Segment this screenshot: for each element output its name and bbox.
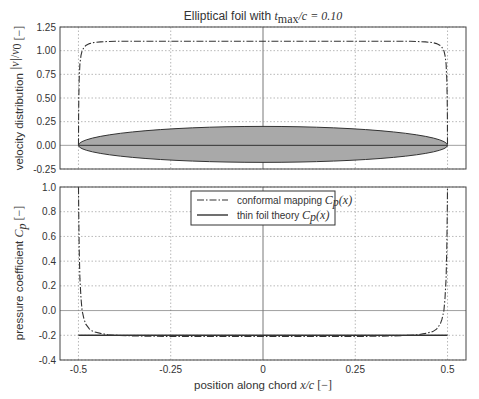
figure: Elliptical foil with tmax/c = 0.10 -0.25… [0, 0, 479, 399]
pressure-axes: -0.4-0.20.00.20.40.60.81.0 -0.5-0.2500.2… [12, 182, 466, 393]
velocity-ylabel: velocity distribution |v|/v0 [−] [8, 26, 26, 171]
ytick-label: 0.8 [42, 206, 56, 217]
svg-text:pressure coefficient Cp [: pressure coefficient Cp [−] [12, 206, 29, 340]
ytick-label: 1.0 [42, 182, 56, 193]
ytick-label: -0.2 [39, 330, 57, 341]
pressure-ylabel: pressure coefficient Cp [−] [12, 206, 29, 340]
ytick-label: 0.2 [42, 280, 56, 291]
pressure-xticks: -0.5-0.2500.250.5 [70, 364, 455, 375]
ytick-label: -0.25 [33, 164, 56, 175]
velocity-axes: -0.250.000.250.500.751.001.25 velocity d… [8, 22, 466, 175]
ytick-label: 0.0 [42, 305, 56, 316]
pressure-xlabel: position along chord x/c [−] [194, 378, 332, 392]
ytick-label: 0.50 [37, 93, 57, 104]
ytick-label: 0.6 [42, 231, 56, 242]
foil-ellipse [78, 126, 447, 162]
xtick-label: -0.5 [70, 364, 88, 375]
ytick-label: 1.25 [37, 22, 57, 33]
foil-profile [78, 126, 447, 162]
xtick-label: 0.5 [441, 364, 455, 375]
ytick-label: -0.4 [39, 355, 57, 366]
ytick-label: 1.00 [37, 45, 57, 56]
ytick-label: 0.25 [37, 116, 57, 127]
velocity-yticks: -0.250.000.250.500.751.001.25 [33, 22, 56, 175]
legend: conformal mapping Cp(x)thin foil theory … [191, 191, 352, 225]
xtick-label: -0.25 [159, 364, 182, 375]
svg-text:velocity distribution |v|/v0: velocity distribution |v|/v0 [−] [8, 26, 26, 171]
xtick-label: 0 [260, 364, 266, 375]
svg-text:position along chord x/c: position along chord x/c [−] [194, 378, 332, 392]
ytick-label: 0.4 [42, 256, 56, 267]
xtick-label: 0.25 [346, 364, 366, 375]
chart-title: Elliptical foil with tmax/c = 0.10 [184, 9, 342, 26]
ytick-label: 0.00 [37, 140, 57, 151]
ytick-label: 0.75 [37, 69, 57, 80]
pressure-yticks: -0.4-0.20.00.20.40.60.81.0 [39, 182, 57, 366]
